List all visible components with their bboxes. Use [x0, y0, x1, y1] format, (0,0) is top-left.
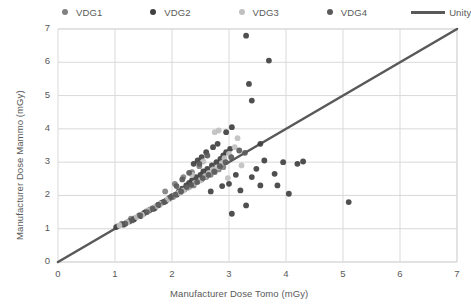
data-point: [162, 189, 168, 195]
legend-label-vdg1: VDG1: [76, 7, 102, 18]
data-point: [242, 150, 248, 156]
data-point: [261, 158, 267, 164]
y-axis-tick-label: 5: [32, 89, 50, 100]
data-point: [243, 33, 249, 39]
data-point: [226, 181, 232, 187]
legend-label-vdg2: VDG2: [164, 7, 190, 18]
x-axis-tick-label: 5: [334, 268, 352, 279]
data-point: [295, 161, 301, 167]
legend-label-vdg4: VDG4: [341, 7, 367, 18]
data-point: [178, 189, 184, 195]
x-axis-tick-label: 4: [277, 268, 295, 279]
data-point: [204, 153, 210, 159]
data-point: [211, 169, 217, 175]
data-point: [117, 222, 123, 228]
data-point: [257, 183, 263, 189]
data-point: [236, 148, 242, 154]
data-point: [243, 203, 249, 209]
data-point: [137, 213, 143, 219]
data-point: [174, 183, 180, 189]
legend-label-vdg3: VDG3: [253, 7, 279, 18]
legend-item-vdg4[interactable]: VDG4: [327, 0, 367, 24]
legend-item-unity[interactable]: Unity: [411, 0, 471, 24]
data-point: [275, 183, 281, 189]
data-point: [194, 179, 200, 185]
data-point: [346, 199, 352, 205]
data-point: [228, 154, 234, 160]
legend-marker-unity: [411, 11, 445, 14]
legend-marker-vdg2: [150, 9, 156, 15]
data-point: [219, 183, 225, 189]
data-point: [300, 159, 306, 165]
data-point: [223, 159, 229, 165]
data-point: [249, 174, 255, 180]
x-axis-tick-label: 1: [106, 268, 124, 279]
data-point: [253, 166, 259, 172]
data-point: [235, 135, 241, 141]
x-axis-tick-label: 3: [220, 268, 238, 279]
data-point: [200, 175, 206, 181]
data-point: [155, 202, 161, 208]
data-point: [272, 171, 278, 177]
legend-marker-vdg1: [62, 9, 68, 15]
data-point: [179, 177, 185, 183]
legend-item-vdg3[interactable]: VDG3: [239, 0, 279, 24]
data-point: [225, 175, 231, 181]
legend-label-unity: Unity: [449, 7, 471, 18]
data-point: [223, 129, 229, 135]
data-point: [233, 172, 239, 178]
data-point: [188, 182, 194, 188]
data-point: [266, 58, 272, 64]
data-point: [173, 192, 179, 198]
data-point: [122, 221, 128, 227]
data-point: [229, 211, 235, 217]
legend-item-vdg2[interactable]: VDG2: [150, 0, 190, 24]
data-point: [129, 217, 135, 223]
chart-legend: VDG1 VDG2 VDG3 VDG4 Unity: [0, 0, 470, 24]
data-point: [217, 163, 223, 169]
data-point: [239, 163, 245, 169]
x-axis-tick-label: 2: [163, 268, 181, 279]
y-axis-tick-label: 3: [32, 155, 50, 166]
y-axis-tick-label: 7: [32, 22, 50, 33]
data-point: [208, 189, 214, 195]
data-point: [249, 98, 255, 104]
y-axis-tick-label: 0: [32, 255, 50, 266]
y-axis-tick-label: 1: [32, 222, 50, 233]
data-point: [215, 141, 221, 147]
x-axis-title: Manufacturer Dose Tomo (mGy): [170, 288, 308, 299]
y-axis-tick-label: 2: [32, 188, 50, 199]
data-point: [191, 161, 197, 167]
legend-marker-vdg3: [239, 9, 245, 15]
legend-item-vdg1[interactable]: VDG1: [62, 0, 102, 24]
legend-marker-vdg4: [327, 9, 333, 15]
y-axis-title: Manufacturer Dose Mammo (mGy): [14, 90, 25, 240]
data-point: [186, 170, 192, 176]
data-point: [206, 172, 212, 178]
data-point: [238, 188, 244, 194]
data-point: [150, 206, 156, 212]
data-point: [161, 199, 167, 205]
data-point: [246, 81, 252, 87]
data-point: [286, 191, 292, 197]
y-axis-tick-label: 4: [32, 122, 50, 133]
x-axis-tick-label: 7: [448, 268, 466, 279]
data-point: [216, 128, 222, 134]
data-point: [280, 159, 286, 165]
data-point: [144, 209, 150, 215]
y-axis-tick-label: 6: [32, 55, 50, 66]
data-point: [229, 124, 235, 130]
x-axis-tick-label: 0: [49, 268, 67, 279]
data-point: [196, 161, 202, 167]
data-point: [257, 141, 263, 147]
x-axis-tick-label: 6: [391, 268, 409, 279]
